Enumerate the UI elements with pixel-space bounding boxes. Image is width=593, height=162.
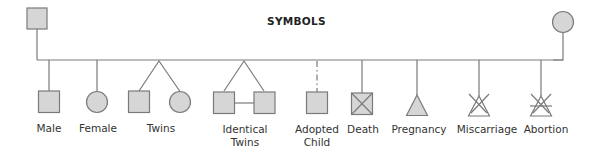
label-adopted-child: Adopted Child bbox=[292, 123, 342, 149]
diagram-title: SYMBOLS bbox=[0, 15, 593, 27]
label-twins: Twins bbox=[140, 122, 182, 135]
label-identical-twins: Identical Twins bbox=[219, 123, 271, 149]
label-pregnancy: Pregnancy bbox=[391, 123, 447, 136]
mother-descent-line bbox=[553, 33, 563, 61]
identical-twin-a-square-icon bbox=[214, 92, 235, 114]
twins-square-icon bbox=[129, 91, 150, 113]
identical-twins-fork-line bbox=[224, 61, 264, 91]
male-square-icon bbox=[39, 91, 60, 113]
label-adopted-child-line2: Child bbox=[292, 136, 342, 149]
label-identical-twins-line2: Twins bbox=[219, 136, 271, 149]
pregnancy-triangle-icon bbox=[407, 95, 428, 116]
label-death: Death bbox=[345, 123, 381, 136]
female-circle-icon bbox=[87, 92, 108, 113]
adopted-square-icon bbox=[307, 92, 328, 114]
label-identical-twins-line1: Identical bbox=[219, 123, 271, 136]
identical-twin-b-square-icon bbox=[254, 92, 275, 114]
twins-circle-icon bbox=[170, 92, 191, 113]
label-abortion: Abortion bbox=[521, 123, 571, 136]
twins-fork-line bbox=[139, 61, 180, 92]
label-female: Female bbox=[77, 122, 119, 135]
label-adopted-child-line1: Adopted bbox=[292, 123, 342, 136]
label-miscarriage: Miscarriage bbox=[456, 123, 518, 136]
label-male: Male bbox=[29, 122, 69, 135]
